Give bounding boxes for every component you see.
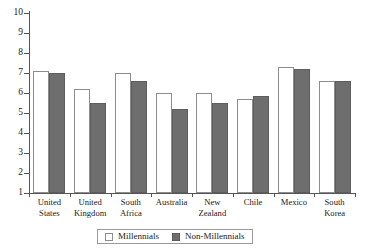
bar-millennials: [237, 99, 253, 193]
bar-non-millennials: [335, 81, 351, 193]
bar-non-millennials: [172, 109, 188, 193]
bar-non-millennials: [294, 69, 310, 193]
y-axis-tick-label: 3: [18, 148, 23, 158]
y-axis-tick-label: 4: [18, 128, 23, 138]
legend-swatch-non-millennials: [172, 233, 180, 241]
bar-group: [274, 13, 315, 193]
category-label-line: Korea: [308, 208, 362, 219]
bar-group: [151, 13, 192, 193]
bar-group: [233, 13, 274, 193]
bar-group: [70, 13, 111, 193]
y-axis-tick-label: 7: [18, 68, 23, 78]
bar-group: [111, 13, 152, 193]
bar-group: [192, 13, 233, 193]
bar-millennials: [115, 73, 131, 193]
grouped-bar-chart: 12345678910 Millennials Non-Millennials …: [0, 0, 379, 251]
y-axis-tick-label: 5: [18, 108, 23, 118]
legend-swatch-millennials: [105, 233, 113, 241]
bar-group: [29, 13, 70, 193]
legend-label-non-millennials: Non-Millennials: [185, 232, 245, 241]
bar-non-millennials: [253, 96, 269, 193]
bar-millennials: [319, 81, 335, 193]
bar-millennials: [74, 89, 90, 193]
x-axis-category-label: SouthKorea: [308, 197, 362, 218]
bar-millennials: [33, 71, 49, 193]
bar-non-millennials: [49, 73, 65, 193]
y-axis-tick-label: 10: [14, 8, 24, 18]
bar-millennials: [156, 93, 172, 193]
legend-item-non-millennials: Non-Millennials: [172, 232, 245, 241]
legend-label-millennials: Millennials: [118, 232, 159, 241]
bar-non-millennials: [212, 103, 228, 193]
category-label-line: South: [308, 197, 362, 208]
bar-non-millennials: [90, 103, 106, 193]
y-axis-tick-label: 8: [18, 48, 23, 58]
plot-area: 12345678910: [29, 13, 355, 193]
y-axis-tick-label: 2: [18, 168, 23, 178]
y-axis-tick-label: 9: [18, 28, 23, 38]
bar-non-millennials: [131, 81, 147, 193]
category-label-line: Africa: [104, 208, 158, 219]
chart-legend: Millennials Non-Millennials: [97, 229, 253, 244]
bar-millennials: [278, 67, 294, 193]
category-label-line: Zealand: [185, 208, 239, 219]
bar-group: [314, 13, 355, 193]
y-axis-tick-label: 6: [18, 88, 23, 98]
bar-millennials: [196, 93, 212, 193]
legend-item-millennials: Millennials: [105, 232, 159, 241]
